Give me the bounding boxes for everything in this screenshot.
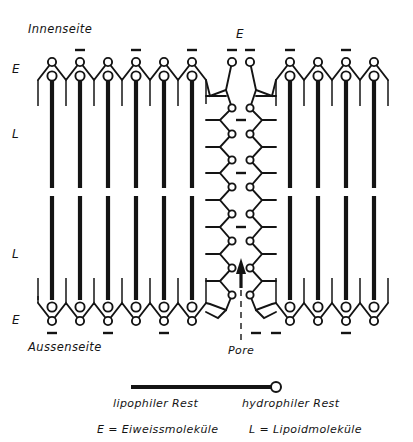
pore-wall-left-nodes — [228, 58, 236, 299]
pore-flow-arrow-icon — [236, 258, 246, 288]
lipid-upper-left — [38, 71, 206, 188]
protein-layer-bottom-left — [38, 303, 206, 321]
pore-wall-left — [206, 62, 232, 318]
membrane-diagram-canvas — [0, 0, 413, 442]
label-outer-side: Aussenseite — [28, 340, 102, 354]
label-pore: Pore — [228, 344, 254, 357]
lipid-lower-left — [38, 196, 206, 312]
protein-bottom-right-nodes — [286, 317, 378, 325]
label-protein-layer-top: E — [12, 62, 20, 76]
pore-wall-right — [250, 62, 276, 318]
legend-lipophilic-label: lipophiler Rest — [113, 397, 198, 410]
lipid-upper-right — [276, 71, 388, 188]
label-lipid-layer-upper: L — [12, 127, 19, 141]
label-protein-pore-top: E — [236, 27, 244, 41]
key-lipid-abbreviation: L = Lipoidmoleküle — [249, 423, 362, 436]
lipid-lower-right — [276, 196, 388, 312]
key-protein-abbreviation: E = Eiweissmoleküle — [97, 423, 218, 436]
legend-symbol — [131, 382, 281, 392]
protein-top-right-nodes — [286, 58, 378, 66]
protein-layer-top-left — [38, 62, 206, 80]
protein-bottom-left-nodes — [48, 317, 196, 325]
label-inner-side: Innenseite — [28, 22, 92, 36]
legend-hydrophilic-label: hydrophiler Rest — [242, 397, 339, 410]
pore-lumen-charges — [236, 120, 246, 227]
label-lipid-layer-lower: L — [12, 247, 19, 261]
protein-top-left-nodes — [48, 58, 196, 66]
membrane-model-figure: Innenseite Aussenseite E L L E E Pore li… — [0, 0, 413, 442]
label-protein-layer-bottom: E — [12, 313, 20, 327]
pore-wall-right-nodes — [246, 58, 254, 299]
